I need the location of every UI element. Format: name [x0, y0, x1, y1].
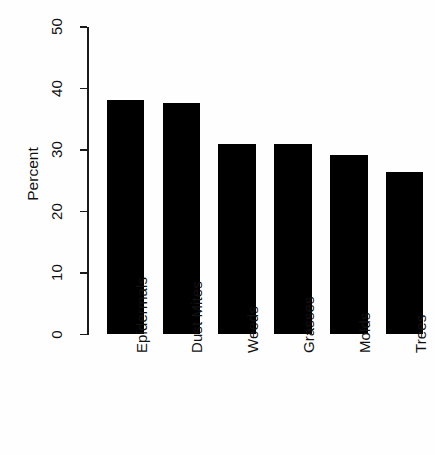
plot-area: EpidermalsDust MitesWeedsGrassesMoldsTre… [0, 0, 435, 455]
x-axis-tick-label: Dust Mites [188, 281, 205, 353]
x-axis-tick-label: Molds [356, 312, 373, 353]
x-axis-tick-label: Grasses [300, 296, 317, 353]
x-axis-tick-label: Weeds [244, 306, 261, 353]
x-axis-tick-label: Epidermals [133, 277, 150, 353]
bar-chart: 01020304050 Percent EpidermalsDust Mites… [0, 0, 435, 455]
bar [386, 172, 424, 335]
bar [330, 155, 368, 335]
x-axis-tick-label: Trees [412, 315, 429, 353]
